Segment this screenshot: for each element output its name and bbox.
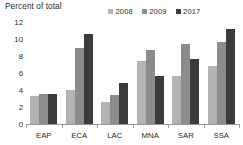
legend-item-2009[interactable]: 2009 bbox=[142, 7, 167, 16]
bar-LAC-2017 bbox=[119, 83, 128, 124]
y-tick-label: 8 bbox=[3, 52, 23, 61]
bar-MNA-2008 bbox=[137, 61, 146, 124]
legend-item-2017[interactable]: 2017 bbox=[176, 7, 201, 16]
y-tick-label: 4 bbox=[3, 86, 23, 95]
bar-SAR-2008 bbox=[172, 76, 181, 124]
y-tick-label: 12 bbox=[3, 18, 23, 27]
x-tick-mark bbox=[133, 124, 134, 128]
x-tick-mark bbox=[62, 124, 63, 128]
x-tick-label-MNA: MNA bbox=[142, 131, 159, 140]
bar-group-LAC bbox=[97, 22, 133, 124]
bar-LAC-2009 bbox=[110, 95, 119, 124]
bar-SSA-2008 bbox=[208, 66, 217, 124]
x-tick-mark bbox=[168, 124, 169, 128]
legend-item-2008[interactable]: 2008 bbox=[108, 7, 133, 16]
bar-ECA-2008 bbox=[66, 90, 75, 124]
x-tick-label-LAC: LAC bbox=[107, 131, 122, 140]
y-tick-label: 10 bbox=[3, 35, 23, 44]
bar-EAP-2008 bbox=[30, 96, 39, 124]
y-axis: 024681012 bbox=[0, 0, 23, 145]
bar-MNA-2017 bbox=[155, 76, 164, 124]
bar-chart: Percent of total 200820092017 024681012 … bbox=[0, 0, 243, 145]
x-tick-label-SSA: SSA bbox=[213, 131, 229, 140]
legend-label: 2017 bbox=[183, 7, 200, 16]
bar-group-SAR bbox=[168, 22, 204, 124]
bar-EAP-2009 bbox=[39, 94, 48, 124]
bar-group-MNA bbox=[133, 22, 169, 124]
bar-group-SSA bbox=[204, 22, 240, 124]
bar-SSA-2017 bbox=[226, 29, 235, 124]
bar-ECA-2017 bbox=[84, 34, 93, 124]
legend-swatch-icon bbox=[142, 9, 147, 14]
legend-swatch-icon bbox=[176, 9, 181, 14]
legend-swatch-icon bbox=[108, 9, 113, 14]
bar-SSA-2009 bbox=[217, 42, 226, 124]
bar-EAP-2017 bbox=[48, 94, 57, 124]
bar-LAC-2008 bbox=[101, 102, 110, 124]
x-tick-label-SAR: SAR bbox=[178, 131, 194, 140]
bar-MNA-2009 bbox=[146, 50, 155, 124]
chart-legend: 200820092017 bbox=[108, 7, 200, 16]
bar-SAR-2017 bbox=[190, 59, 199, 124]
plot-area bbox=[26, 22, 239, 124]
bar-group-ECA bbox=[62, 22, 98, 124]
y-tick-label: 6 bbox=[3, 69, 23, 78]
legend-label: 2008 bbox=[116, 7, 133, 16]
y-tick-label: 0 bbox=[3, 120, 23, 129]
x-tick-mark bbox=[239, 124, 240, 128]
x-tick-label-EAP: EAP bbox=[36, 131, 52, 140]
legend-label: 2009 bbox=[149, 7, 166, 16]
x-tick-mark bbox=[97, 124, 98, 128]
x-tick-mark bbox=[204, 124, 205, 128]
y-tick-label: 2 bbox=[3, 103, 23, 112]
bar-ECA-2009 bbox=[75, 48, 84, 124]
bar-group-EAP bbox=[26, 22, 62, 124]
bar-SAR-2009 bbox=[181, 44, 190, 124]
x-tick-label-ECA: ECA bbox=[71, 131, 87, 140]
x-tick-mark bbox=[26, 124, 27, 128]
